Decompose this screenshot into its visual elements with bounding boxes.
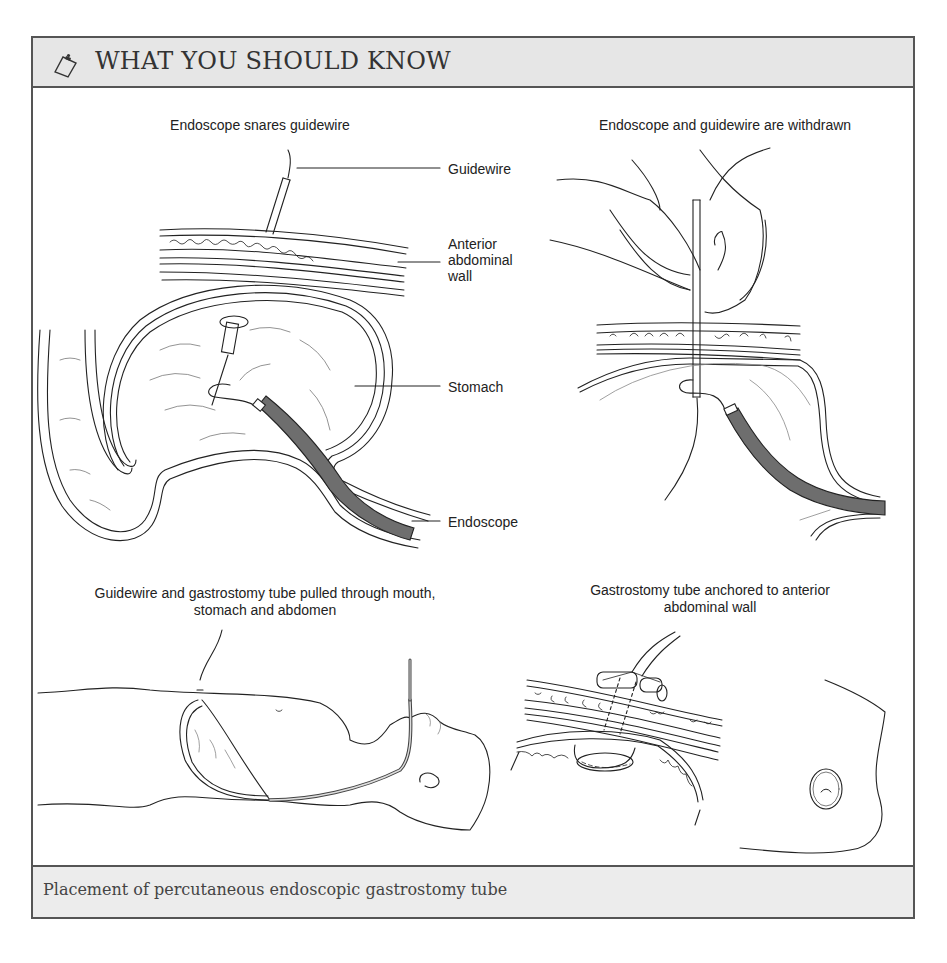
illustrations xyxy=(0,0,947,963)
illustration-withdrawn xyxy=(550,148,885,540)
illustration-snare xyxy=(38,150,440,548)
illustration-anchored xyxy=(511,632,885,853)
illustration-pulled-through xyxy=(38,630,490,830)
